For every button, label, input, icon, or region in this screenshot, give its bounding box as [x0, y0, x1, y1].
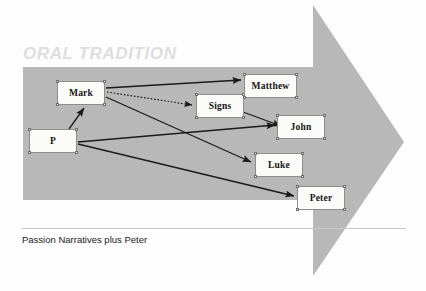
- node-mark[interactable]: Mark: [57, 81, 105, 105]
- resize-handle[interactable]: [295, 73, 298, 76]
- caption-label: Passion Narratives plus Peter: [22, 234, 147, 245]
- resize-handle[interactable]: [195, 116, 198, 119]
- resize-handle[interactable]: [75, 151, 78, 154]
- resize-handle[interactable]: [243, 73, 246, 76]
- caption-divider: [22, 228, 406, 229]
- resize-handle[interactable]: [254, 152, 257, 155]
- resize-handle[interactable]: [254, 175, 257, 178]
- resize-handle[interactable]: [343, 208, 346, 211]
- resize-handle[interactable]: [75, 128, 78, 131]
- resize-handle[interactable]: [28, 128, 31, 131]
- resize-handle[interactable]: [103, 103, 106, 106]
- resize-handle[interactable]: [296, 208, 299, 211]
- node-label-luke: Luke: [268, 160, 290, 170]
- node-p[interactable]: P: [29, 129, 77, 153]
- node-peter[interactable]: Peter: [297, 186, 345, 210]
- node-label-p: P: [50, 136, 56, 146]
- oral-tradition-label: ORAL TRADITION: [23, 44, 177, 64]
- resize-handle[interactable]: [295, 96, 298, 99]
- resize-handle[interactable]: [56, 103, 59, 106]
- node-signs[interactable]: Signs: [196, 94, 244, 118]
- resize-handle[interactable]: [243, 96, 246, 99]
- diagram-canvas: ORAL TRADITION Mark P Signs Matthew John: [0, 0, 426, 291]
- resize-handle[interactable]: [103, 80, 106, 83]
- resize-handle[interactable]: [296, 185, 299, 188]
- node-label-john: John: [291, 122, 312, 132]
- resize-handle[interactable]: [301, 152, 304, 155]
- node-matthew[interactable]: Matthew: [244, 74, 297, 98]
- resize-handle[interactable]: [242, 116, 245, 119]
- node-label-matthew: Matthew: [252, 81, 290, 91]
- node-john[interactable]: John: [277, 115, 325, 139]
- node-luke[interactable]: Luke: [255, 153, 303, 177]
- resize-handle[interactable]: [276, 137, 279, 140]
- node-label-mark: Mark: [69, 88, 93, 98]
- node-label-signs: Signs: [209, 101, 232, 111]
- resize-handle[interactable]: [323, 114, 326, 117]
- node-label-peter: Peter: [310, 193, 333, 203]
- resize-handle[interactable]: [301, 175, 304, 178]
- resize-handle[interactable]: [28, 151, 31, 154]
- resize-handle[interactable]: [195, 93, 198, 96]
- resize-handle[interactable]: [276, 114, 279, 117]
- resize-handle[interactable]: [323, 137, 326, 140]
- resize-handle[interactable]: [56, 80, 59, 83]
- resize-handle[interactable]: [343, 185, 346, 188]
